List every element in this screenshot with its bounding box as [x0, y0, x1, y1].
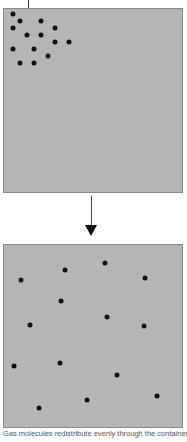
- gas-molecule-final: [37, 406, 42, 411]
- gas-molecule-final: [115, 373, 120, 378]
- gas-molecule-final: [12, 364, 17, 369]
- figure-caption: Gas molecules redistribute evenly throug…: [3, 429, 187, 438]
- gas-molecule-final: [58, 361, 63, 366]
- gas-molecule-initial: [18, 19, 23, 24]
- gas-molecule-initial: [25, 33, 30, 38]
- gas-molecule-initial: [39, 33, 44, 38]
- gas-molecule-final: [28, 323, 33, 328]
- transition-arrow-shaft: [91, 196, 92, 226]
- gas-molecule-initial: [46, 54, 51, 59]
- gas-molecule-final: [142, 324, 147, 329]
- gas-molecule-final: [85, 398, 90, 403]
- gas-molecule-initial: [18, 61, 23, 66]
- container-final-state: [3, 244, 183, 428]
- gas-molecule-initial: [11, 47, 16, 52]
- container-initial-state: [3, 8, 183, 193]
- gas-molecule-final: [59, 299, 64, 304]
- gas-molecule-initial: [53, 26, 58, 31]
- gas-molecule-initial: [32, 47, 37, 52]
- arrow-down-icon: [85, 225, 97, 236]
- gas-molecule-final: [155, 394, 160, 399]
- gas-molecule-initial: [39, 19, 44, 24]
- gas-molecule-final: [19, 278, 24, 283]
- gas-molecule-final: [103, 261, 108, 266]
- gas-molecule-final: [105, 315, 110, 320]
- gas-molecule-initial: [11, 12, 16, 17]
- gas-molecule-final: [63, 268, 68, 273]
- gas-molecule-initial: [32, 61, 37, 66]
- gas-molecule-initial: [53, 40, 58, 45]
- gas-molecule-initial: [11, 26, 16, 31]
- gas-molecule-final: [143, 276, 148, 281]
- gas-molecule-initial: [67, 40, 72, 45]
